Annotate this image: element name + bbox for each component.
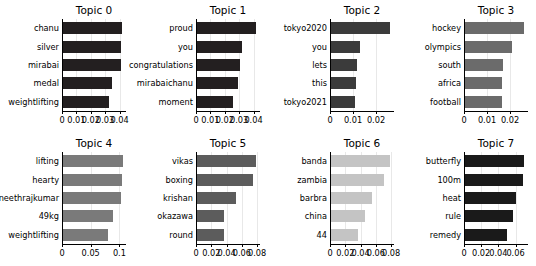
category-label: weightlifting bbox=[8, 98, 59, 106]
bar bbox=[196, 210, 224, 222]
bar-row: mirabai bbox=[62, 59, 126, 71]
x-tick-mark bbox=[330, 245, 331, 247]
x-axis-spine bbox=[330, 244, 394, 245]
category-label: 49kg bbox=[39, 212, 59, 220]
category-label: you bbox=[312, 43, 327, 51]
x-tick-label: 0.04 bbox=[110, 116, 128, 124]
bar-row: south bbox=[464, 59, 528, 71]
panel-title: Topic 2 bbox=[330, 3, 394, 17]
x-tick-mark bbox=[91, 245, 92, 247]
plot-area: vikasboxingkrishanokazawaround bbox=[196, 152, 260, 244]
x-axis-spine bbox=[464, 111, 528, 112]
bar bbox=[196, 155, 256, 167]
x-tick-mark bbox=[464, 245, 465, 247]
plot-area: tokyo2020youletsthistokyo2021 bbox=[330, 19, 394, 111]
bar-row: banda bbox=[330, 155, 394, 167]
bar bbox=[62, 41, 121, 53]
bar bbox=[62, 59, 121, 71]
x-tick-mark bbox=[210, 112, 211, 114]
bar bbox=[196, 22, 256, 34]
x-tick-mark bbox=[376, 245, 377, 247]
topic-panel-5: Topic 5vikasboxingkrishanokazawaround00.… bbox=[134, 133, 268, 266]
x-tick-label: 0.05 bbox=[82, 249, 100, 257]
x-tick-mark bbox=[91, 112, 92, 114]
x-tick-label: 0.02 bbox=[472, 249, 490, 257]
category-label: puneethrajkumar bbox=[0, 194, 59, 202]
x-axis-spine bbox=[62, 111, 126, 112]
x-tick-label: 0.04 bbox=[489, 249, 507, 257]
bar bbox=[62, 210, 113, 222]
category-label: butterfly bbox=[426, 157, 461, 165]
x-tick-label: 0 bbox=[461, 116, 466, 124]
bar bbox=[330, 192, 372, 204]
x-tick-mark bbox=[254, 112, 255, 114]
y-axis-spine bbox=[464, 152, 465, 244]
plot-area: butterfly100mheatruleremedy bbox=[464, 152, 528, 244]
bar bbox=[330, 41, 360, 53]
bar-row: zambia bbox=[330, 174, 394, 186]
panel-title: Topic 6 bbox=[330, 136, 394, 150]
category-label: barbra bbox=[300, 194, 327, 202]
bar bbox=[464, 174, 523, 186]
x-tick-mark bbox=[353, 112, 354, 114]
category-label: football bbox=[430, 98, 461, 106]
bar-row: silver bbox=[62, 41, 126, 53]
bar bbox=[330, 210, 365, 222]
bar-row: olympics bbox=[464, 41, 528, 53]
x-tick-mark bbox=[361, 245, 362, 247]
x-tick-mark bbox=[196, 245, 197, 247]
bar-row: you bbox=[196, 41, 260, 53]
x-tick-mark bbox=[345, 245, 346, 247]
plot-area: proudyoucongratulationsmirabaichanumomen… bbox=[196, 19, 260, 111]
y-axis-spine bbox=[196, 19, 197, 111]
category-label: proud bbox=[169, 24, 193, 32]
category-label: okazawa bbox=[157, 212, 193, 220]
x-tick-mark bbox=[510, 112, 511, 114]
x-tick-mark bbox=[119, 245, 120, 247]
x-tick-mark bbox=[227, 245, 228, 247]
panel-title: Topic 0 bbox=[62, 3, 126, 17]
bar-row: 44 bbox=[330, 229, 394, 241]
x-tick-label: 0.1 bbox=[113, 249, 126, 257]
bar-row: proud bbox=[196, 22, 260, 34]
bar-row: heat bbox=[464, 192, 528, 204]
category-label: hockey bbox=[432, 24, 461, 32]
x-tick-mark bbox=[62, 112, 63, 114]
category-label: vikas bbox=[172, 157, 193, 165]
category-label: rule bbox=[445, 212, 461, 220]
x-tick-mark bbox=[464, 112, 465, 114]
x-tick-label: 0 bbox=[193, 116, 198, 124]
category-label: china bbox=[305, 212, 327, 220]
topic-panel-4: Topic 4liftingheartypuneethrajkumar49kgw… bbox=[0, 133, 134, 266]
x-tick-label: 0.01 bbox=[344, 116, 362, 124]
bar-row: china bbox=[330, 210, 394, 222]
category-label: tokyo2021 bbox=[284, 98, 327, 106]
x-tick-mark bbox=[225, 112, 226, 114]
x-axis-spine bbox=[196, 111, 260, 112]
bar bbox=[196, 96, 233, 108]
topic-panel-7: Topic 7butterfly100mheatruleremedy00.020… bbox=[402, 133, 536, 266]
bar-row: 49kg bbox=[62, 210, 126, 222]
bar-row: football bbox=[464, 96, 528, 108]
bar-row: vikas bbox=[196, 155, 260, 167]
x-tick-label: 0 bbox=[59, 116, 64, 124]
bar bbox=[62, 192, 121, 204]
category-label: mirabai bbox=[28, 61, 59, 69]
topic-panel-3: Topic 3hockeyolympicssouthafricafootball… bbox=[402, 0, 536, 133]
topic-bar-chart-grid: Topic 0chanusilvermirabaimedalweightlift… bbox=[0, 0, 536, 266]
category-label: you bbox=[178, 43, 193, 51]
bar bbox=[62, 229, 108, 241]
bar-row: you bbox=[330, 41, 394, 53]
category-label: moment bbox=[159, 98, 193, 106]
x-tick-mark bbox=[330, 112, 331, 114]
x-tick-label: 0.08 bbox=[382, 249, 400, 257]
bar-row: lifting bbox=[62, 155, 126, 167]
panel-title: Topic 5 bbox=[196, 136, 260, 150]
bar-row: chanu bbox=[62, 22, 126, 34]
bar-row: lets bbox=[330, 59, 394, 71]
panel-title: Topic 1 bbox=[196, 3, 260, 17]
x-tick-label: 0 bbox=[327, 116, 332, 124]
bar bbox=[62, 77, 112, 89]
bar bbox=[464, 77, 502, 89]
bar bbox=[196, 77, 238, 89]
